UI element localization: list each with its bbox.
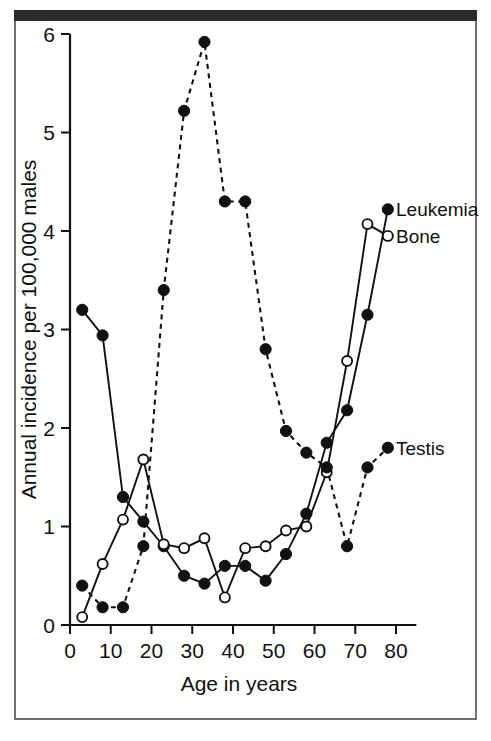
datapoint-testis-78[interactable] <box>382 442 393 453</box>
y-axis-title: Annual incidence per 100,000 males <box>17 160 40 500</box>
datapoint-bone-68[interactable] <box>342 356 352 366</box>
datapoint-testis-13[interactable] <box>117 602 128 613</box>
datapoint-testis-23[interactable] <box>158 285 169 296</box>
datapoint-leukemia-43[interactable] <box>240 560 251 571</box>
datapoint-leukemia-8[interactable] <box>97 330 108 341</box>
x-axis-title: Age in years <box>181 672 298 695</box>
datapoint-bone-73[interactable] <box>362 219 372 229</box>
x-tick-label-30: 30 <box>181 639 204 662</box>
datapoint-bone-43[interactable] <box>240 543 250 553</box>
x-tick-label-20: 20 <box>140 639 163 662</box>
datapoint-bone-13[interactable] <box>118 515 128 525</box>
series-label-testis: Testis <box>396 438 445 459</box>
y-tick-label-2: 2 <box>43 417 55 440</box>
datapoint-leukemia-73[interactable] <box>362 309 373 320</box>
datapoint-bone-38[interactable] <box>220 592 230 602</box>
x-tick-label-0: 0 <box>64 639 76 662</box>
y-tick-label-5: 5 <box>43 121 55 144</box>
datapoint-leukemia-48[interactable] <box>260 575 271 586</box>
datapoint-bone-33[interactable] <box>199 533 209 543</box>
datapoint-leukemia-78[interactable] <box>382 204 393 215</box>
y-tick-label-4: 4 <box>43 220 55 243</box>
y-tick-label-3: 3 <box>43 318 55 341</box>
datapoint-bone-23[interactable] <box>159 539 169 549</box>
datapoint-bone-48[interactable] <box>261 541 271 551</box>
series-group <box>77 36 394 622</box>
datapoint-bone-58[interactable] <box>301 522 311 532</box>
chart-plot: 012345601020304050607080 Age in yearsAnn… <box>0 0 491 741</box>
datapoint-testis-38[interactable] <box>219 196 230 207</box>
datapoint-leukemia-33[interactable] <box>199 578 210 589</box>
series-label-bone: Bone <box>396 226 440 247</box>
x-tick-label-60: 60 <box>303 639 326 662</box>
series-line-leukemia <box>82 209 388 583</box>
datapoint-leukemia-3[interactable] <box>77 304 88 315</box>
datapoint-leukemia-28[interactable] <box>179 570 190 581</box>
figure-container: 012345601020304050607080 Age in yearsAnn… <box>0 0 491 741</box>
datapoint-bone-78[interactable] <box>383 231 393 241</box>
series-label-leukemia: Leukemia <box>396 199 479 220</box>
datapoint-testis-18[interactable] <box>138 541 149 552</box>
datapoint-testis-43[interactable] <box>240 196 251 207</box>
datapoint-bone-53[interactable] <box>281 525 291 535</box>
series-line-bone <box>82 224 388 617</box>
x-tick-label-70: 70 <box>344 639 367 662</box>
datapoint-testis-48[interactable] <box>260 344 271 355</box>
datapoint-leukemia-38[interactable] <box>219 560 230 571</box>
datapoint-testis-63[interactable] <box>321 462 332 473</box>
x-tick-label-80: 80 <box>384 639 407 662</box>
x-tick-label-50: 50 <box>262 639 285 662</box>
datapoint-testis-58[interactable] <box>301 447 312 458</box>
y-tick-label-1: 1 <box>43 515 55 538</box>
datapoint-testis-33[interactable] <box>199 36 210 47</box>
y-tick-label-0: 0 <box>43 614 55 637</box>
x-tick-label-40: 40 <box>221 639 244 662</box>
datapoint-leukemia-13[interactable] <box>117 491 128 502</box>
y-tick-label-6: 6 <box>43 23 55 46</box>
datapoint-testis-53[interactable] <box>280 425 291 436</box>
datapoint-leukemia-68[interactable] <box>342 405 353 416</box>
datapoint-testis-73[interactable] <box>362 462 373 473</box>
datapoint-leukemia-53[interactable] <box>280 548 291 559</box>
datapoint-testis-8[interactable] <box>97 602 108 613</box>
datapoint-bone-3[interactable] <box>77 612 87 622</box>
datapoint-bone-28[interactable] <box>179 543 189 553</box>
datapoint-leukemia-18[interactable] <box>138 516 149 527</box>
datapoint-bone-8[interactable] <box>98 559 108 569</box>
x-tick-label-10: 10 <box>99 639 122 662</box>
datapoint-testis-68[interactable] <box>342 541 353 552</box>
datapoint-testis-28[interactable] <box>179 105 190 116</box>
datapoint-testis-3[interactable] <box>77 580 88 591</box>
datapoint-bone-18[interactable] <box>138 455 148 465</box>
